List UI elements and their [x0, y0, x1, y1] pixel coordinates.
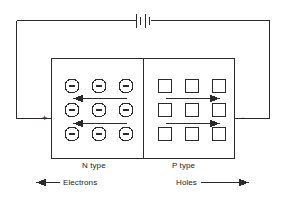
- negative-terminal-sign: −: [240, 114, 245, 123]
- positive-terminal-sign: +: [42, 114, 47, 123]
- diagram-canvas: + − N type P type Electrons Holes: [0, 0, 286, 200]
- hole-carrier: [158, 128, 171, 141]
- hole-carrier: [158, 80, 171, 93]
- pn-junction-diagram: [0, 0, 286, 200]
- electron-arrow-head: [73, 120, 83, 127]
- hole-arrow-head: [210, 95, 220, 102]
- p-type-carriers: [158, 80, 225, 141]
- hole-carrier: [185, 80, 198, 93]
- p-type-label: P type: [172, 161, 195, 171]
- hole-carrier: [158, 104, 171, 117]
- holes-legend-label: Holes: [176, 178, 197, 188]
- hole-arrow-head: [210, 120, 220, 127]
- hole-carrier: [185, 128, 198, 141]
- hole-carrier: [212, 80, 225, 93]
- battery-symbol: [137, 14, 150, 28]
- electrons-legend-label: Electrons: [63, 178, 97, 188]
- hole-carrier: [185, 104, 198, 117]
- hole-carrier: [212, 104, 225, 117]
- legend-hole-arrow-head: [239, 179, 249, 187]
- legend-electron-arrow-head: [36, 179, 46, 187]
- hole-carrier: [212, 128, 225, 141]
- electron-arrow-head: [73, 95, 83, 102]
- n-type-label: N type: [82, 161, 106, 171]
